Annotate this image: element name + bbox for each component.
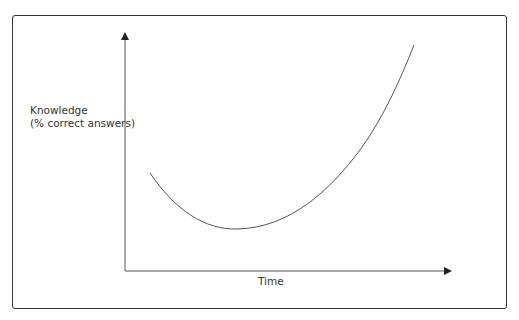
y-axis-label-line1: Knowledge [30, 104, 135, 117]
knowledge-time-plot [0, 0, 519, 320]
y-axis-label-line2: (% correct answers) [30, 117, 135, 130]
knowledge-curve [150, 45, 414, 229]
x-axis-label: Time [258, 275, 284, 287]
y-axis-label: Knowledge (% correct answers) [30, 104, 135, 130]
